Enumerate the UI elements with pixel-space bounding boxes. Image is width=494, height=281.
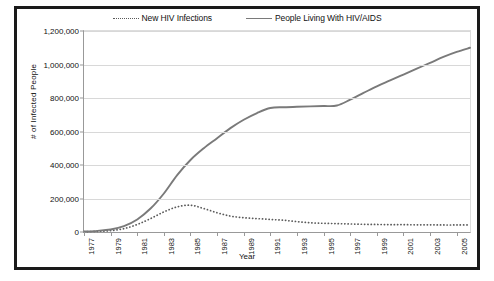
gridline bbox=[84, 132, 470, 133]
gridline bbox=[84, 98, 470, 99]
y-axis-title: # of Infected People bbox=[29, 42, 38, 162]
gridline bbox=[84, 199, 470, 200]
y-axis-tick bbox=[80, 165, 84, 166]
series-line bbox=[84, 48, 470, 232]
x-axis-tick bbox=[190, 232, 191, 236]
legend-label: People Living With HIV/AIDS bbox=[275, 13, 381, 23]
chart-legend: New HIV Infections People Living With HI… bbox=[17, 13, 477, 23]
chart-container: New HIV Infections People Living With HI… bbox=[14, 6, 480, 270]
y-axis-tick-label: 800,000 bbox=[50, 94, 79, 103]
x-axis-tick bbox=[164, 232, 165, 236]
y-axis-tick bbox=[80, 131, 84, 132]
dotted-line-icon bbox=[113, 15, 139, 22]
x-axis-tick bbox=[350, 232, 351, 236]
y-axis-tick bbox=[80, 198, 84, 199]
y-axis-tick-label: 1,000,000 bbox=[43, 60, 79, 69]
x-axis-tick bbox=[84, 232, 85, 236]
x-axis-tick bbox=[324, 232, 325, 236]
legend-entry-people-living-with-hiv-aids: People Living With HIV/AIDS bbox=[246, 13, 381, 23]
x-axis-tick bbox=[244, 232, 245, 236]
x-axis-tick bbox=[430, 232, 431, 236]
chart-inner: New HIV Infections People Living With HI… bbox=[17, 9, 477, 267]
x-axis-tick bbox=[297, 232, 298, 236]
x-axis-tick bbox=[457, 232, 458, 236]
y-axis-tick bbox=[80, 98, 84, 99]
series-line bbox=[84, 205, 470, 232]
gridline bbox=[84, 165, 470, 166]
y-axis-tick bbox=[80, 64, 84, 65]
x-axis-tick bbox=[377, 232, 378, 236]
legend-entry-new-hiv-infections: New HIV Infections bbox=[113, 13, 212, 23]
y-axis-tick-label: 200,000 bbox=[50, 194, 79, 203]
x-axis-tick bbox=[217, 232, 218, 236]
y-axis-tick-label: 400,000 bbox=[50, 161, 79, 170]
y-axis-tick-label: 0 bbox=[75, 228, 79, 237]
gridline bbox=[84, 65, 470, 66]
y-axis-tick-label: 1,200,000 bbox=[43, 27, 79, 36]
x-axis-tick bbox=[270, 232, 271, 236]
y-axis-tick-label: 600,000 bbox=[50, 127, 79, 136]
solid-line-icon bbox=[246, 15, 272, 22]
plot-area: 0200,000400,000600,000800,0001,000,0001,… bbox=[83, 30, 471, 233]
gridline bbox=[84, 31, 470, 32]
y-axis-tick bbox=[80, 31, 84, 32]
x-axis-tick bbox=[403, 232, 404, 236]
legend-label: New HIV Infections bbox=[142, 13, 212, 23]
x-axis-title: Year bbox=[17, 252, 477, 261]
x-axis-tick bbox=[137, 232, 138, 236]
x-axis-tick bbox=[111, 232, 112, 236]
